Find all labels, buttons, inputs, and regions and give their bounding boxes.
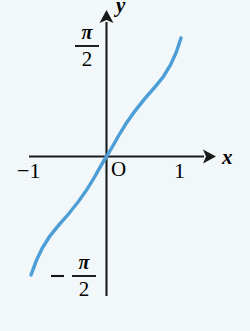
fraction-pi-over-two-bottom: π 2 [67,252,101,300]
origin-label: O [111,157,126,182]
arcsin-graph-figure: y x O −1 1 π 2 π [0,0,250,331]
x-tick-label-one: 1 [174,158,185,184]
y-tick-label-minus-pi-over-two: π 2 [50,252,101,300]
y-axis-label: y [116,0,125,18]
x-axis-arrow-icon [203,150,216,164]
x-tick-label-minus-one: −1 [17,158,40,184]
minus-sign-icon [50,252,67,292]
x-axis-label: x [222,145,233,170]
y-tick-label-pi-over-two: π 2 [70,22,104,70]
